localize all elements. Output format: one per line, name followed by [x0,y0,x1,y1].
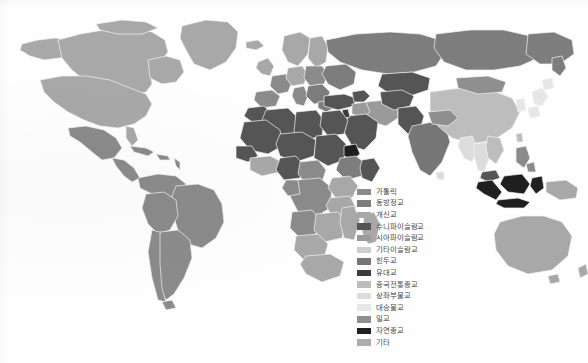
legend-item[interactable]: 수니파이슬람교 [357,221,424,233]
legend-item[interactable]: 대승불교 [357,302,424,314]
map-legend[interactable]: 가톨릭동방정교개신교수니파이슬람교시아파이슬람교기타이슬람교힌두교유대교중국전통… [357,186,424,348]
legend-swatch [357,212,371,219]
legend-swatch [357,189,371,196]
legend-label: 자연종교 [376,327,404,335]
region-sri-lanka[interactable] [436,172,444,180]
legend-swatch [357,293,371,300]
legend-swatch [357,281,371,288]
legend-label: 기타이슬람교 [376,246,417,254]
region-taiwan[interactable] [516,133,523,142]
legend-item[interactable]: 중국전통종교 [357,279,424,291]
legend-swatch [357,223,371,230]
legend-label: 대승불교 [376,304,404,312]
legend-item[interactable]: 밀교 [357,314,424,326]
legend-label: 개신교 [376,211,397,219]
world-religion-map-figure: 가톨릭동방정교개신교수니파이슬람교시아파이슬람교기타이슬람교힌두교유대교중국전통… [0,0,588,363]
legend-item[interactable]: 개신교 [357,209,424,221]
legend-item[interactable]: 상좌부불교 [357,290,424,302]
region-korea[interactable] [516,98,526,112]
legend-label: 힌두교 [376,257,397,265]
legend-label: 동방정교 [376,199,404,207]
legend-label: 수니파이슬람교 [376,223,424,231]
legend-item[interactable]: 시아파이슬람교 [357,232,424,244]
legend-swatch [357,304,371,311]
legend-item[interactable]: 자연종교 [357,325,424,337]
legend-item[interactable]: 가톨릭 [357,186,424,198]
region-tasmania[interactable] [548,274,560,284]
legend-swatch [357,247,371,254]
legend-label: 유대교 [376,269,397,277]
legend-label: 중국전통종교 [376,281,417,289]
legend-swatch [357,270,371,277]
legend-label: 상좌부불교 [376,292,411,300]
legend-item[interactable]: 기타 [357,337,424,349]
legend-label: 기타 [376,339,390,347]
region-philippines-south[interactable] [526,162,536,172]
legend-item[interactable]: 힌두교 [357,256,424,268]
legend-label: 밀교 [376,315,390,323]
region-japan-south[interactable] [528,106,540,118]
legend-label: 가톨릭 [376,188,397,196]
legend-swatch [357,339,371,346]
world-map[interactable] [0,0,588,363]
legend-swatch [357,258,371,265]
legend-item[interactable]: 유대교 [357,267,424,279]
legend-swatch [357,235,371,242]
legend-item[interactable]: 기타이슬람교 [357,244,424,256]
region-hokkaido[interactable] [542,78,554,90]
legend-swatch [357,200,371,207]
legend-swatch [357,316,371,323]
legend-item[interactable]: 동방정교 [357,198,424,210]
legend-label: 시아파이슬람교 [376,234,424,242]
legend-swatch [357,328,371,335]
